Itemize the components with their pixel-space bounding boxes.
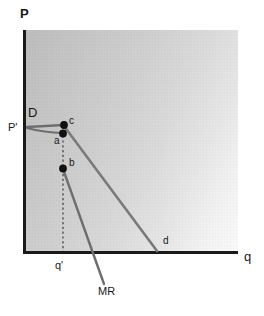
point-c-label: c [69,116,74,126]
quantity-axis-label: q [244,250,251,263]
data-point-b-marker [59,165,67,173]
marginal-revenue-line [63,169,104,284]
demand-curve-upper-segment [27,125,64,127]
point-d-label: d [163,236,169,246]
quantity-level-label: q' [55,260,63,271]
point-a-label: a [54,136,60,146]
curve-layer [0,0,264,316]
demand-curve-lower-segment [64,126,157,251]
kinked-demand-curve-figure: P q D P' q' MR a b c d [0,0,264,316]
point-b-label: b [69,158,75,168]
data-point-a-marker [59,130,67,138]
demand-curve-kink-to-a [27,128,63,133]
marginal-revenue-label: MR [98,286,115,297]
price-axis-label: P [20,7,29,20]
data-point-c-marker [60,121,68,129]
price-level-label: P' [8,122,17,133]
demand-curve-label: D [28,106,37,119]
